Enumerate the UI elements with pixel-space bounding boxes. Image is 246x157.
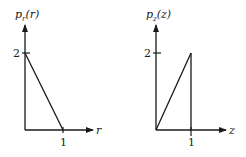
x-axis-label: z (228, 124, 235, 137)
y-axis-label: pr(r) (15, 8, 39, 23)
y-tick-label: 2 (144, 47, 151, 60)
chart-pr: 2 1 pr(r) r (13, 8, 102, 149)
chart-canvas: 2 1 pr(r) r 2 1 pz(z) z (0, 0, 246, 157)
chart-pz: 2 1 pz(z) z (144, 8, 235, 149)
x-tick-label: 1 (60, 136, 67, 149)
x-axis-label: r (96, 124, 102, 137)
y-axis-label: pz(z) (146, 8, 171, 23)
density-line (156, 53, 191, 130)
density-line (25, 53, 63, 130)
y-tick-label: 2 (13, 47, 20, 60)
x-tick-label: 1 (188, 136, 195, 149)
